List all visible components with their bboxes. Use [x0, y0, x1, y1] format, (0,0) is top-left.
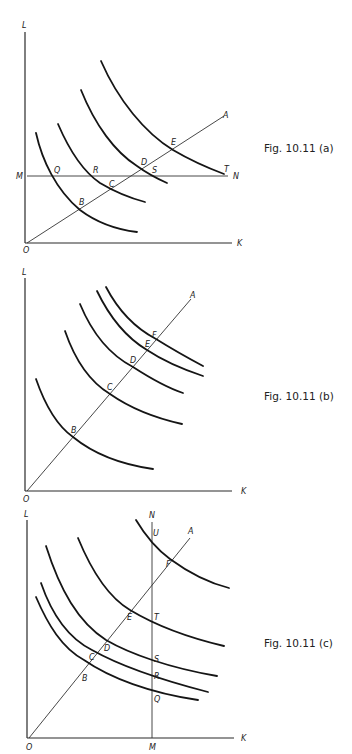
- label-k: K: [241, 487, 247, 496]
- point-d: D: [104, 644, 110, 653]
- isoquant-5: [136, 520, 229, 588]
- isoquant-1: [36, 379, 153, 469]
- caption-a: Fig. 10.11 (a): [264, 142, 334, 154]
- label-n: N: [233, 172, 239, 181]
- isoquant-figures: L K O M N A Q R C B D S E T Fig. 10.11 (…: [0, 0, 352, 754]
- isoquant-1: [36, 133, 137, 232]
- label-a: A: [187, 527, 193, 536]
- label-o: O: [23, 495, 29, 504]
- point-u: U: [153, 529, 159, 538]
- point-f: F: [152, 331, 157, 340]
- label-m: M: [149, 743, 156, 752]
- label-m: M: [16, 172, 23, 181]
- isoquant-4: [101, 61, 224, 174]
- point-q: Q: [154, 695, 160, 704]
- ray-oa: [27, 299, 191, 491]
- isoquant-4: [78, 538, 224, 646]
- point-b: B: [79, 198, 85, 207]
- label-a: A: [189, 291, 195, 300]
- point-t: T: [154, 613, 160, 622]
- caption-c: Fig. 10.11 (c): [264, 637, 333, 649]
- point-c: C: [109, 180, 115, 189]
- figure-b: L K O A B C D E F Fig. 10.11 (b): [22, 268, 334, 504]
- label-l: L: [22, 268, 26, 277]
- label-o: O: [26, 743, 32, 752]
- point-b: B: [71, 426, 77, 435]
- label-a: A: [222, 111, 228, 120]
- label-n: N: [149, 511, 155, 520]
- point-d: D: [141, 158, 147, 167]
- point-t: T: [224, 165, 230, 174]
- point-s: S: [154, 655, 159, 664]
- isoquant-2: [41, 583, 208, 692]
- point-c: C: [89, 653, 95, 662]
- label-l: L: [22, 21, 26, 30]
- label-l: L: [24, 510, 28, 519]
- point-d: D: [130, 356, 136, 365]
- figure-a: L K O M N A Q R C B D S E T Fig. 10.11 (…: [16, 21, 334, 255]
- isoquant-1: [36, 597, 198, 700]
- point-r: R: [93, 166, 99, 175]
- point-q: Q: [54, 166, 60, 175]
- ray-oa: [27, 116, 224, 243]
- point-c: C: [107, 383, 113, 392]
- point-b: B: [82, 674, 88, 683]
- point-s: S: [152, 166, 157, 175]
- figure-c: L K O N M A U F E T D S C R B Q Fig. 10.…: [24, 510, 333, 752]
- label-k: K: [241, 734, 247, 743]
- point-e: E: [127, 613, 133, 622]
- caption-b: Fig. 10.11 (b): [264, 390, 334, 402]
- label-k: K: [237, 239, 243, 248]
- point-e: E: [171, 138, 177, 147]
- point-r: R: [154, 672, 160, 681]
- isoquant-3: [80, 304, 183, 393]
- point-f: F: [166, 560, 171, 569]
- point-e: E: [145, 340, 151, 349]
- label-o: O: [23, 246, 29, 255]
